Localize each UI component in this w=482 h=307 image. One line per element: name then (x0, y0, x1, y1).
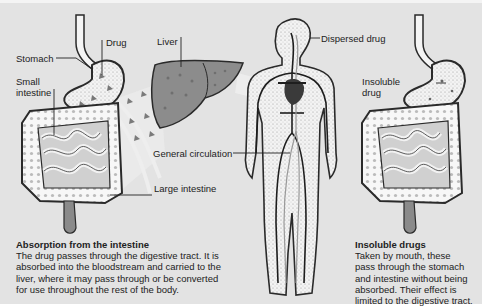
caption-absorption-line: liver, where it may pass through or be c… (16, 273, 246, 284)
caption-absorption: Absorption from the intestine The drug p… (16, 239, 246, 295)
label-insoluble-drug-2: drug (362, 87, 381, 98)
caption-insoluble-line: Taken by mouth, these (355, 250, 482, 261)
human-body (245, 19, 336, 295)
caption-absorption-title: Absorption from the intestine (16, 239, 246, 250)
caption-absorption-line: The drug passes through the digestive tr… (16, 250, 246, 261)
label-small-intestine-1: Small (16, 76, 40, 87)
label-stomach: Stomach (16, 53, 54, 64)
caption-absorption-line: for use throughout the rest of the body. (16, 284, 246, 295)
label-large-intestine: Large intestine (154, 183, 216, 194)
right-digestive-tract (362, 15, 465, 233)
label-small-intestine-2: intestine (16, 87, 51, 98)
caption-insoluble: Insoluble drugs Taken by mouth, these pa… (355, 239, 482, 306)
caption-insoluble-line: pass through the stomach (355, 261, 482, 272)
caption-insoluble-line: absorbed. Their effect is (355, 284, 482, 295)
label-dispersed-drug: Dispersed drug (321, 33, 385, 44)
caption-insoluble-line: limited to the digestive tract. (355, 295, 482, 306)
label-drug: Drug (106, 37, 127, 48)
label-general-circulation: General circulation (153, 148, 232, 159)
caption-insoluble-title: Insoluble drugs (355, 239, 482, 250)
caption-insoluble-line: and intestine without being (355, 273, 482, 284)
label-liver: Liver (157, 36, 178, 47)
caption-absorption-line: absorbed into the bloodstream and carrie… (16, 261, 246, 272)
label-insoluble-drug-1: Insoluble (362, 76, 400, 87)
liver (152, 61, 243, 128)
